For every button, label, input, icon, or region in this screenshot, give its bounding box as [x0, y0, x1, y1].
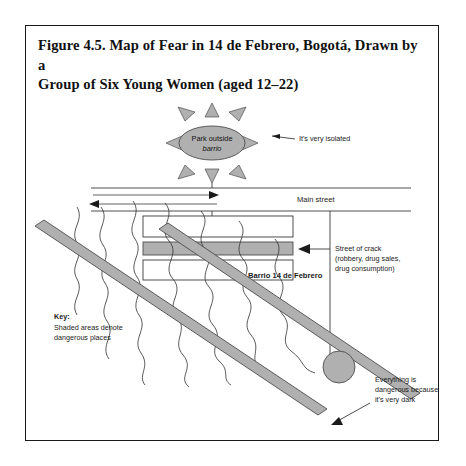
callout-isolated-text: It's very isolated [299, 134, 350, 143]
callout-crack-line-3: drug consumption) [335, 264, 395, 273]
park-sun-group: Park outside barrio [166, 103, 258, 183]
wavy-line-1 [75, 207, 80, 315]
dangerous-circle [323, 351, 355, 383]
park-label-line-2: barrio [203, 144, 222, 153]
street-arrow-right-icon [93, 191, 219, 199]
callout-crack-line-1: Street of crack [335, 244, 382, 253]
barrio-label: Barrio 14 de Febrero [248, 271, 323, 280]
park-ellipse [179, 126, 245, 160]
key-heading: Key: [54, 312, 70, 321]
key-legend: Key: Shaded areas denote dangerous place… [54, 312, 123, 342]
callout-isolated: It's very isolated [272, 134, 350, 143]
callout-street-of-crack: Street of crack (robbery, drug sales, dr… [298, 244, 400, 273]
callout-dark-line-2: dangerous because [375, 385, 438, 394]
map-drawing: Park outside barrio It's very isolated M… [25, 25, 439, 441]
key-line-2: dangerous places [54, 333, 111, 342]
main-street-label: Main street [297, 195, 335, 204]
figure-container: Figure 4.5. Map of Fear in 14 de Febrero… [0, 0, 466, 466]
street-arrow-left-icon [89, 200, 217, 208]
callout-very-dark: Everything is dangerous because it's ver… [331, 375, 438, 425]
callout-crack-line-2: (robbery, drug sales, [335, 254, 400, 263]
callout-dark-line-1: Everything is [375, 375, 417, 384]
block-street-of-crack [143, 242, 293, 255]
main-street-group: Main street [89, 188, 411, 211]
key-line-1: Shaded areas denote [54, 323, 123, 332]
park-label-line-1: Park outside [191, 134, 232, 143]
callout-dark-line-3: it's very dark [375, 395, 416, 404]
